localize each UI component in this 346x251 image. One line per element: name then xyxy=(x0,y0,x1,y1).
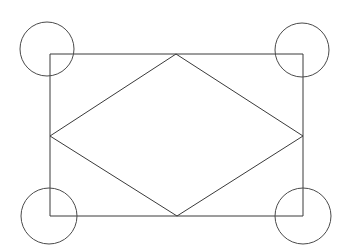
geometric-figure-svg xyxy=(0,0,346,251)
figure-canvas xyxy=(0,0,346,251)
